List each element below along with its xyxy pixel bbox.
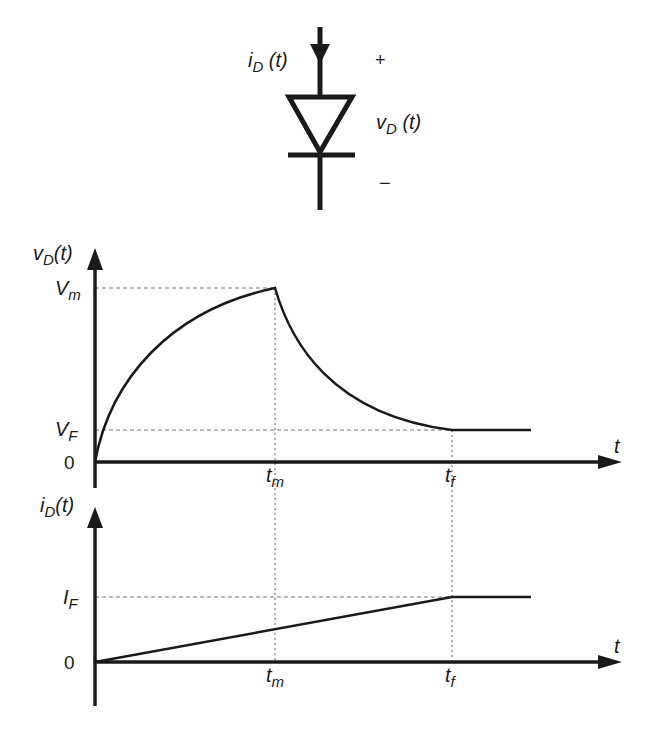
vf-tick-label: VF [55,418,78,444]
current-plot: iD(t) IF 0 tm tf t [40,494,622,706]
tf-tick-label: tf [445,664,457,690]
x-axis-arrow-icon [598,655,622,669]
vm-tick-label: Vm [55,277,81,303]
diode-current-label: iD (t) [248,49,288,75]
voltage-plot: vD(t) Vm VF 0 tm tf t [33,242,622,662]
diode-forward-recovery-figure: iD (t) + vD (t) − vD(t) Vm VF 0 tm tf t … [0,0,651,749]
tm-tick-label: tm [266,464,284,490]
voltage-curve [95,288,531,462]
diode-symbol [288,27,355,210]
current-x-label: t [614,635,621,657]
voltage-y-label: vD(t) [33,242,73,268]
plus-sign: + [375,50,386,70]
y-axis-arrow-icon [87,248,103,270]
minus-sign: − [379,172,391,194]
diode-triangle [289,97,352,152]
y-axis-arrow-icon [87,507,103,528]
if-tick-label: IF [63,586,79,612]
zero-tick-label: 0 [64,452,75,473]
diode-voltage-label: vD (t) [376,111,421,137]
x-axis-arrow-icon [598,455,622,469]
zero-tick-label: 0 [64,652,75,673]
current-y-label: iD(t) [40,494,74,520]
tf-tick-label: tf [445,464,457,490]
current-curve [95,597,531,662]
tm-tick-label: tm [266,664,284,690]
voltage-x-label: t [614,435,621,457]
current-arrow-icon [310,44,330,64]
